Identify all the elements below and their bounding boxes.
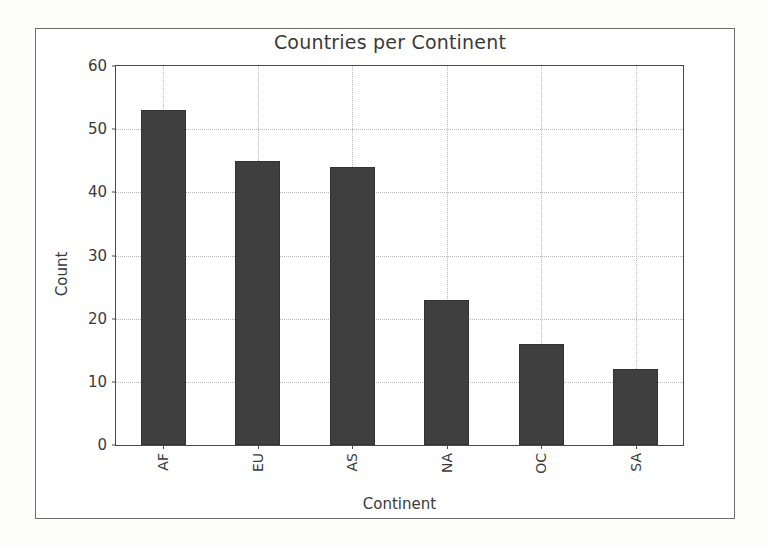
- plot-area: 0102030405060 AFEUASNAOCSA Continent: [115, 65, 684, 446]
- bar-oc: [519, 344, 564, 445]
- y-tick-mark: [112, 255, 116, 256]
- x-tick-label-sa: SA: [628, 453, 644, 472]
- y-tick-mark: [112, 129, 116, 130]
- gridline-horizontal: [116, 192, 683, 193]
- y-axis-label: Count: [53, 252, 71, 297]
- x-tick-label-na: NA: [439, 453, 455, 473]
- y-tick-label: 30: [88, 247, 107, 265]
- x-tick-label-oc: OC: [533, 453, 549, 474]
- y-tick-mark: [112, 192, 116, 193]
- y-tick-label: 20: [88, 310, 107, 328]
- x-tick-mark: [447, 445, 448, 449]
- y-tick-label: 0: [97, 436, 107, 454]
- x-tick-label-af: AF: [155, 453, 171, 471]
- y-tick-label: 40: [88, 183, 107, 201]
- x-tick-mark: [636, 445, 637, 449]
- gridline-horizontal: [116, 382, 683, 383]
- x-tick-mark: [258, 445, 259, 449]
- y-tick-mark: [112, 381, 116, 382]
- figure-canvas: Countries per Continent Count 0102030405…: [0, 0, 768, 548]
- x-tick-label-as: AS: [344, 453, 360, 471]
- x-axis-label: Continent: [116, 495, 683, 513]
- bar-na: [424, 300, 469, 445]
- y-tick-label: 10: [88, 373, 107, 391]
- gridline-horizontal: [116, 319, 683, 320]
- x-tick-mark: [163, 445, 164, 449]
- y-tick-label: 50: [88, 120, 107, 138]
- gridline-horizontal: [116, 129, 683, 130]
- x-tick-mark: [541, 445, 542, 449]
- bar-sa: [613, 369, 658, 445]
- x-tick-label-eu: EU: [250, 453, 266, 472]
- y-tick-mark: [112, 445, 116, 446]
- bar-as: [330, 167, 375, 445]
- x-tick-mark: [352, 445, 353, 449]
- chart-title: Countries per Continent: [96, 31, 684, 53]
- gridline-horizontal: [116, 256, 683, 257]
- y-tick-mark: [112, 66, 116, 67]
- bar-af: [141, 110, 186, 445]
- bar-eu: [235, 161, 280, 445]
- y-tick-mark: [112, 318, 116, 319]
- y-tick-label: 60: [88, 57, 107, 75]
